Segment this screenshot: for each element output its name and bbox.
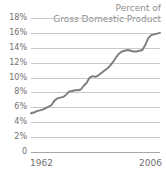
y-axis-tick-14: 14% (1, 44, 27, 52)
y-axis-tick-0: 0 (1, 148, 27, 156)
x-axis-tick-end: 2006 (139, 159, 162, 168)
gridline-0 (31, 152, 160, 153)
y-axis-tick-4: 4% (1, 118, 27, 126)
y-axis-tick-2: 2% (1, 133, 27, 141)
series-polyline (31, 33, 160, 113)
y-axis-tick-12: 12% (1, 59, 27, 67)
y-axis-tick-8: 8% (1, 88, 27, 96)
y-axis-tick-18: 18% (1, 14, 27, 22)
y-axis-tick-6: 6% (1, 103, 27, 111)
x-axis-tick-start: 1962 (30, 159, 53, 168)
data-series-line (31, 18, 160, 152)
y-axis-tick-10: 10% (1, 74, 27, 82)
chart-title-line-1: Percent of (11, 3, 161, 14)
gdp-percent-line-chart: Percent of Gross Domestic Product 02%4%6… (0, 0, 166, 181)
y-axis-tick-16: 16% (1, 29, 27, 37)
